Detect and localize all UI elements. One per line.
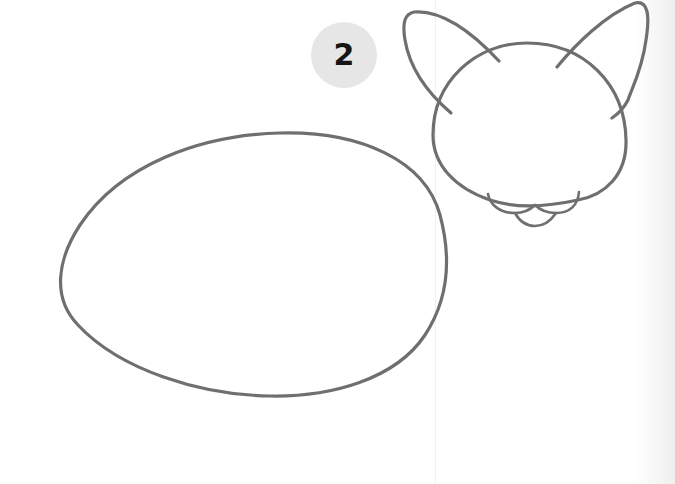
step-badge: 2 <box>311 22 377 88</box>
left-ear <box>404 12 499 113</box>
body-oval <box>61 133 447 396</box>
head-circle <box>433 43 626 206</box>
right-ear <box>557 3 648 118</box>
step-number: 2 <box>334 40 355 70</box>
muzzle-chin <box>515 213 556 226</box>
drawing-canvas: 2 <box>0 0 675 484</box>
